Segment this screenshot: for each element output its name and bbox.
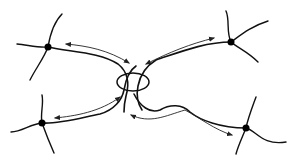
arrow-bottom-right bbox=[131, 110, 232, 135]
node-top-right bbox=[228, 39, 235, 46]
node-top-left bbox=[45, 44, 52, 51]
arrow-bottom-left bbox=[55, 97, 120, 118]
arrow-top-left bbox=[66, 44, 129, 63]
node-top-right-branches bbox=[226, 11, 268, 62]
node-bottom-left-branches bbox=[11, 95, 54, 153]
strand-bottom-left bbox=[42, 66, 136, 123]
node-top-left-branches bbox=[17, 14, 62, 80]
nodes bbox=[39, 39, 250, 132]
strand-bottom-right bbox=[134, 94, 246, 128]
strands bbox=[42, 42, 246, 128]
node-bottom-right bbox=[243, 125, 250, 132]
knot-network-diagram bbox=[0, 0, 296, 164]
strand-top-left bbox=[48, 47, 128, 112]
central-knot-loop bbox=[117, 73, 149, 91]
node-bottom-right-branches bbox=[236, 97, 286, 154]
node-bottom-left bbox=[39, 120, 46, 127]
diagram-canvas bbox=[0, 0, 296, 164]
strand-top-right bbox=[137, 42, 231, 110]
